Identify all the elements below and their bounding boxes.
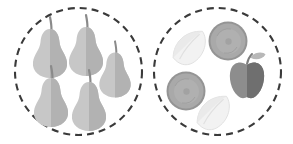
apple-icon <box>230 52 266 98</box>
illustration-canvas <box>0 0 293 144</box>
left-set-group <box>15 8 142 135</box>
pear-icon <box>99 41 130 97</box>
lemon-leaf-icon <box>168 29 212 68</box>
right-set-group <box>154 8 281 135</box>
fruit-slice-icon <box>209 22 248 61</box>
fruit-slice-icon <box>167 72 206 111</box>
pear-icon <box>69 15 103 76</box>
fruit-sets-illustration <box>0 0 293 144</box>
pear-icon <box>33 17 67 78</box>
